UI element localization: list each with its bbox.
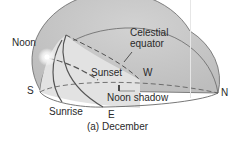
north-label: N: [221, 87, 228, 98]
figure-caption: (a) December: [0, 121, 235, 132]
celestial-equator-label-2: equator: [130, 38, 164, 49]
south-label: S: [27, 85, 34, 96]
sunset-label: Sunset: [91, 67, 122, 78]
celestial-equator-label-1: Celestial: [130, 27, 168, 38]
celestial-sphere-diagram: Noon Celestial equator Sunset W S N Noon…: [0, 0, 235, 150]
noon-shadow-label: Noon shadow: [107, 92, 168, 103]
noon-label: Noon: [12, 37, 36, 48]
west-label: W: [143, 67, 152, 78]
east-label: E: [108, 109, 115, 120]
divider-line: [190, 0, 191, 98]
sunrise-label: Sunrise: [49, 106, 83, 117]
